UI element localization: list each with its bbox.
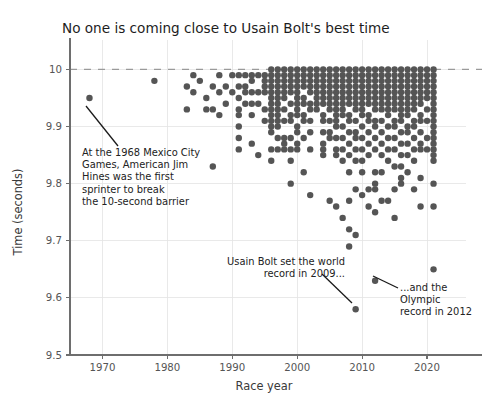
data-point <box>339 72 345 78</box>
data-point <box>359 95 365 101</box>
data-point <box>339 146 345 152</box>
data-point <box>313 89 319 95</box>
data-point <box>404 112 410 118</box>
data-point <box>424 66 430 72</box>
data-point <box>301 112 307 118</box>
data-point <box>398 83 404 89</box>
data-point <box>391 123 397 129</box>
data-point <box>229 89 235 95</box>
olympic-record-annotation-line: Olympic <box>400 294 440 305</box>
data-point <box>339 100 345 106</box>
data-point <box>346 129 352 135</box>
data-point <box>203 95 209 101</box>
data-point <box>346 140 352 146</box>
data-point <box>430 140 436 146</box>
data-point <box>430 95 436 101</box>
data-point <box>294 123 300 129</box>
data-point <box>359 78 365 84</box>
data-point <box>391 118 397 124</box>
data-point <box>223 100 229 106</box>
data-point <box>424 95 430 101</box>
data-point <box>301 118 307 124</box>
data-point <box>385 66 391 72</box>
data-point <box>288 180 294 186</box>
data-point <box>216 89 222 95</box>
data-point <box>249 78 255 84</box>
data-point <box>372 209 378 215</box>
data-point <box>288 78 294 84</box>
data-point <box>417 118 423 124</box>
data-point <box>385 146 391 152</box>
data-point <box>210 83 216 89</box>
data-point <box>385 78 391 84</box>
data-point <box>398 118 404 124</box>
data-point <box>281 146 287 152</box>
data-point <box>313 95 319 101</box>
data-point <box>307 83 313 89</box>
hines-annotation-line: At the 1968 Mexico City <box>82 147 200 158</box>
data-point <box>417 129 423 135</box>
data-point <box>294 140 300 146</box>
data-point <box>417 146 423 152</box>
data-point <box>372 135 378 141</box>
data-point <box>236 106 242 112</box>
data-point <box>378 83 384 89</box>
data-point <box>346 83 352 89</box>
data-point <box>404 140 410 146</box>
data-point <box>346 66 352 72</box>
data-point <box>430 135 436 141</box>
data-point <box>333 66 339 72</box>
data-point <box>398 66 404 72</box>
data-point <box>365 100 371 106</box>
data-point <box>411 146 417 152</box>
data-point <box>365 118 371 124</box>
data-point <box>424 106 430 112</box>
data-point <box>151 78 157 84</box>
x-axis-label: Race year <box>236 379 293 393</box>
data-point <box>339 158 345 164</box>
y-tick-label: 9.9 <box>46 121 62 132</box>
data-point <box>268 89 274 95</box>
data-point <box>372 95 378 101</box>
data-point <box>294 112 300 118</box>
data-point <box>320 100 326 106</box>
data-point <box>391 95 397 101</box>
data-point <box>255 89 261 95</box>
data-point <box>404 95 410 101</box>
data-point <box>378 72 384 78</box>
data-point <box>262 78 268 84</box>
data-point <box>236 146 242 152</box>
data-point <box>398 72 404 78</box>
data-point <box>372 89 378 95</box>
data-point <box>262 89 268 95</box>
data-point <box>424 78 430 84</box>
data-point <box>372 169 378 175</box>
data-point <box>288 146 294 152</box>
data-point <box>307 100 313 106</box>
data-point <box>346 78 352 84</box>
data-point <box>268 146 274 152</box>
data-point <box>236 72 242 78</box>
data-point <box>359 83 365 89</box>
data-point <box>398 112 404 118</box>
data-point <box>326 83 332 89</box>
data-point <box>352 83 358 89</box>
data-point <box>262 83 268 89</box>
data-point <box>372 146 378 152</box>
data-point <box>307 72 313 78</box>
data-point <box>424 83 430 89</box>
data-point <box>346 118 352 124</box>
data-point <box>346 243 352 249</box>
data-point <box>352 158 358 164</box>
data-point <box>275 118 281 124</box>
y-axis-label: Time (seconds) <box>11 169 25 257</box>
data-point <box>391 66 397 72</box>
data-point <box>411 186 417 192</box>
data-point <box>301 78 307 84</box>
data-point <box>430 89 436 95</box>
data-point <box>411 158 417 164</box>
hines-annotation-line: Games, American Jim <box>82 159 188 170</box>
data-point <box>411 72 417 78</box>
data-point <box>275 146 281 152</box>
data-point <box>262 106 268 112</box>
